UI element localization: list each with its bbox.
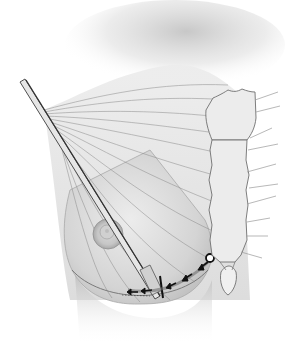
anatomy-illustration [0, 0, 288, 357]
illustration-canvas [0, 0, 288, 357]
